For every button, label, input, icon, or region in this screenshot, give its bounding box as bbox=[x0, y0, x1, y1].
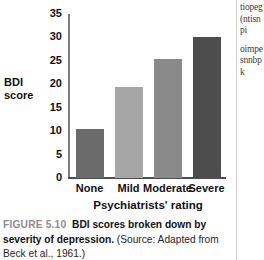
y-axis-tick-label: 20 bbox=[36, 78, 62, 89]
bar bbox=[193, 37, 221, 178]
y-axis-title: BDI score bbox=[4, 76, 38, 101]
bar bbox=[154, 59, 182, 178]
y-axis-tick-label: 0 bbox=[36, 172, 62, 183]
y-axis-tick-label: 15 bbox=[36, 102, 62, 113]
figure-caption: FIGURE 5.10 BDI scores broken down by se… bbox=[3, 218, 231, 260]
x-axis-title: Psychiatrists' rating bbox=[68, 199, 228, 211]
adjacent-text-column: tiopeg(ntisnpi oimpesnnbpk bbox=[240, 2, 264, 258]
column-divider-rule bbox=[236, 0, 237, 260]
y-axis-tick-label: 10 bbox=[36, 125, 62, 136]
adjacent-paragraph-2: oimpesnnbpk bbox=[240, 44, 264, 79]
bar bbox=[76, 129, 104, 178]
bars-layer bbox=[70, 14, 226, 178]
caption-figure-number: FIGURE 5.10 bbox=[3, 219, 66, 230]
y-axis-title-line-2: score bbox=[4, 89, 38, 102]
bar bbox=[115, 87, 143, 178]
bar-chart: 05101520253035 BDI score NoneMildModerat… bbox=[0, 0, 232, 200]
x-axis-tick-label: Severe bbox=[181, 182, 232, 194]
y-axis-tick-label: 30 bbox=[36, 31, 62, 42]
y-axis-title-line-1: BDI bbox=[4, 76, 38, 89]
y-axis-tick-label: 5 bbox=[36, 149, 62, 160]
adjacent-paragraph-1: tiopeg(ntisnpi bbox=[240, 2, 264, 37]
y-axis-tick-label: 35 bbox=[36, 8, 62, 19]
figure-container: 05101520253035 BDI score NoneMildModerat… bbox=[0, 0, 264, 260]
y-axis-tick-label: 25 bbox=[36, 55, 62, 66]
